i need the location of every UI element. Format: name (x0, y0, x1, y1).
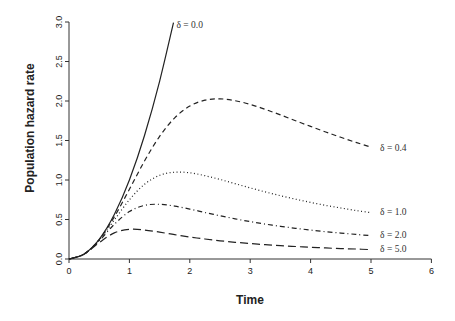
series-line (69, 99, 371, 259)
x-axis-title: Time (236, 293, 264, 307)
y-tick-label: 2.0 (54, 95, 64, 108)
y-tick-label: 3.0 (54, 16, 64, 29)
y-tick-label: 0.0 (54, 253, 64, 266)
x-tick-label: 3 (248, 266, 253, 276)
x-tick-label: 1 (127, 266, 132, 276)
series-line (69, 23, 174, 259)
series-label: δ = 5.0 (380, 244, 407, 254)
x-tick-label: 2 (187, 266, 192, 276)
x-tick-label: 4 (308, 266, 313, 276)
x-tick-label: 5 (368, 266, 373, 276)
y-tick-label: 0.5 (54, 213, 64, 226)
axes: 0.00.51.01.52.02.53.00123456 (54, 16, 434, 276)
series-lines (69, 23, 371, 259)
y-tick-label: 2.5 (54, 55, 64, 68)
series-line (69, 204, 371, 259)
x-tick-label: 0 (66, 266, 71, 276)
series-label: δ = 0.0 (177, 20, 204, 30)
series-label: δ = 0.4 (380, 143, 407, 153)
series-label: δ = 2.0 (380, 230, 407, 240)
y-tick-label: 1.5 (54, 134, 64, 147)
x-tick-label: 6 (429, 266, 434, 276)
hazard-rate-chart: 0.00.51.01.52.02.53.00123456 δ = 0.0δ = … (0, 0, 455, 321)
series-labels: δ = 0.0δ = 0.4δ = 1.0δ = 2.0δ = 5.0 (177, 20, 407, 254)
y-axis-title: Population hazard rate (23, 63, 37, 193)
series-line (69, 229, 371, 259)
series-label: δ = 1.0 (380, 207, 407, 217)
y-tick-label: 1.0 (54, 174, 64, 187)
